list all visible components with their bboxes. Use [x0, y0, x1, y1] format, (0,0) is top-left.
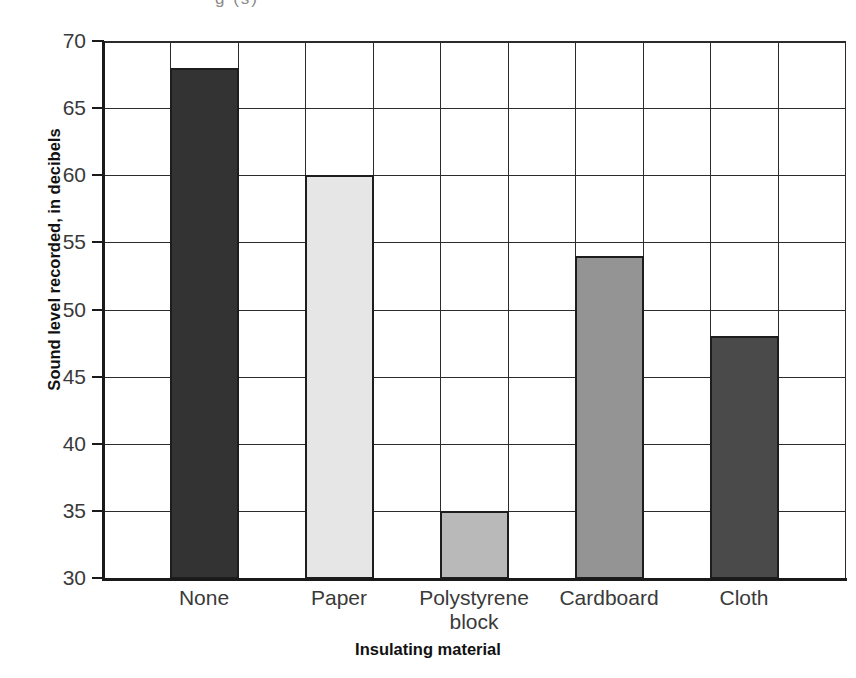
- x-tick-label-line: Cardboard: [535, 586, 683, 610]
- y-tick-label: 55: [63, 230, 86, 254]
- bar-polystyrene-block[interactable]: [440, 511, 509, 579]
- bar-none[interactable]: [170, 68, 239, 579]
- gridline-x-6: [508, 41, 509, 578]
- gridline-x-11: [845, 41, 846, 578]
- y-axis-line: [102, 41, 105, 580]
- clipped-top-text: g (s): [215, 0, 259, 9]
- x-axis-title: Insulating material: [0, 640, 856, 659]
- x-tick-label-none: None: [130, 586, 278, 610]
- bar-cardboard[interactable]: [575, 256, 644, 579]
- x-tick-label-polystyrene-block: Polystyreneblock: [400, 586, 548, 633]
- y-tick-label: 50: [63, 298, 86, 322]
- x-axis-line: [102, 578, 847, 581]
- y-axis-title: Sound level recorded, in decibels: [45, 60, 64, 460]
- x-tick-label-line: block: [400, 610, 548, 634]
- x-tick-label-paper: Paper: [265, 586, 413, 610]
- y-tick-label: 60: [63, 163, 86, 187]
- x-tick-label-cardboard: Cardboard: [535, 586, 683, 610]
- gridline-x-5: [440, 41, 441, 578]
- bar-paper[interactable]: [305, 175, 374, 579]
- x-tick-label-cloth: Cloth: [670, 586, 818, 610]
- x-tick-label-line: Paper: [265, 586, 413, 610]
- x-tick-label-line: Polystyrene: [400, 586, 548, 610]
- y-tick-label: 45: [63, 365, 86, 389]
- y-tick-label: 70: [63, 29, 86, 53]
- chart-plot-frame: 303540455055606570: [103, 41, 845, 578]
- y-tick-label: 65: [63, 96, 86, 120]
- y-tick-label: 40: [63, 432, 86, 456]
- gridline-y-70: [103, 41, 845, 43]
- bar-cloth[interactable]: [710, 336, 779, 579]
- x-tick-label-line: Cloth: [670, 586, 818, 610]
- y-tick-label: 35: [63, 499, 86, 523]
- x-tick-label-line: None: [130, 586, 278, 610]
- y-tick-label: 30: [63, 566, 86, 590]
